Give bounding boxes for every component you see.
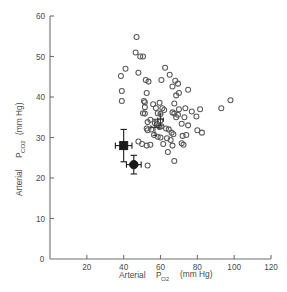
x-axis-label-subscript: O2 [161,275,170,282]
plot-canvas: 020406080100120102030405060 Arterial P O… [0,0,287,292]
y-tick-label: 60 [36,12,46,21]
mean-marker-filled-square [120,142,128,150]
y-tick-label: 40 [36,93,46,102]
x-axis-label-units: (mm Hg) [180,269,213,279]
y-axis-label-units: (mm Hg) [14,102,24,135]
y-tick-label: 50 [36,53,46,62]
x-tick-label: 0 [40,255,45,264]
x-tick-label: 100 [227,263,241,272]
y-tick-label: 30 [36,134,46,143]
y-tick-label: 20 [36,174,46,183]
scatter-plot-figure: 020406080100120102030405060 Arterial P O… [0,0,287,292]
mean-marker-filled-circle [130,160,138,168]
x-tick-label: 20 [82,263,92,272]
x-axis-label-main: Arterial [119,270,146,280]
x-tick-label: 120 [264,263,278,272]
y-axis-label-main: Arterial [14,169,24,196]
y-axis-label-subscript: CO2 [19,140,26,153]
y-tick-label: 10 [36,215,46,224]
